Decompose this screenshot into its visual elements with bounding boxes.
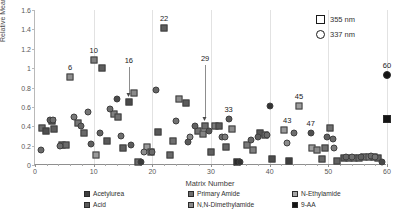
legend-swatch-square-icon	[188, 191, 194, 197]
data-point-355nm	[80, 129, 87, 136]
data-point-337nm	[307, 130, 314, 137]
legend-swatch-square-icon	[84, 191, 90, 197]
data-point-355nm	[215, 123, 222, 130]
legend-item-355nm: 355 nm	[316, 12, 388, 27]
annotation-leader-line	[129, 67, 130, 93]
x-axis-tick-label: 30	[207, 168, 215, 175]
y-axis-tick-label: 0.2	[21, 142, 31, 149]
x-axis-minor-tick	[352, 164, 353, 166]
data-point-337nm	[137, 159, 144, 166]
data-point-337nm	[88, 141, 95, 148]
data-point-355nm	[281, 127, 288, 134]
legend-item-n-ethylamide: N-Ethylamide	[292, 188, 396, 199]
x-axis-tick-mark	[35, 164, 36, 167]
x-axis-tick-mark	[270, 164, 271, 167]
data-point-355nm	[314, 146, 321, 153]
legend-label-337nm: 337 nm	[330, 30, 355, 39]
data-point-355nm	[114, 114, 121, 121]
x-axis-tick-label: 0	[33, 168, 37, 175]
data-point-337nm	[184, 138, 191, 145]
x-axis-minor-tick	[176, 164, 177, 166]
x-axis-minor-tick	[82, 164, 83, 166]
y-axis-tick-mark	[32, 107, 35, 108]
x-axis-minor-tick	[199, 164, 200, 166]
data-point-337nm	[379, 159, 386, 166]
x-axis-minor-tick	[188, 164, 189, 166]
x-axis-minor-tick	[375, 164, 376, 166]
x-axis-minor-tick	[281, 164, 282, 166]
data-point-337nm	[348, 153, 355, 160]
legend-item-9-aa: 9-AA	[292, 199, 396, 210]
data-point-337nm	[70, 114, 77, 121]
legend-item-337nm: 337 nm	[316, 27, 388, 42]
y-axis-tick-label: 1	[27, 65, 31, 72]
y-axis-tick-mark	[32, 49, 35, 50]
x-axis-minor-tick	[364, 164, 365, 166]
y-axis-tick-label: 1.4	[21, 26, 31, 33]
circle-open-icon	[316, 30, 325, 39]
data-point-337nm	[383, 71, 391, 79]
y-axis-tick-mark	[32, 10, 35, 11]
annotation-arrowhead-icon	[126, 93, 130, 97]
data-point-337nm	[107, 105, 114, 112]
x-axis-tick-mark	[211, 164, 212, 167]
data-point-337nm	[50, 116, 57, 123]
legend-swatch-square-icon	[84, 202, 90, 208]
data-point-355nm	[169, 138, 176, 145]
data-point-337nm	[172, 117, 179, 124]
data-point-355nm	[99, 65, 106, 72]
data-point-337nm	[284, 140, 291, 147]
legend-item-n-n-dimethylamide: N,N-Dimethylamide	[188, 199, 292, 210]
y-axis-tick-label: 0.6	[21, 103, 31, 110]
data-point-337nm	[96, 129, 103, 136]
x-axis-minor-tick	[105, 164, 106, 166]
x-axis-minor-tick	[164, 164, 165, 166]
data-point-337nm	[149, 148, 156, 155]
data-point-337nm	[222, 134, 229, 141]
x-axis-minor-tick	[58, 164, 59, 166]
y-axis-tick-label: 0.4	[21, 123, 31, 130]
x-axis-minor-tick	[293, 164, 294, 166]
y-axis-tick-mark	[32, 88, 35, 89]
annotation-arrowhead-icon	[203, 117, 207, 121]
data-point-337nm	[152, 86, 159, 93]
legend-label: 9-AA	[301, 201, 316, 208]
data-point-337nm	[141, 148, 148, 155]
legend-label: Primary Amide	[197, 190, 240, 197]
x-axis-tick-label: 20	[148, 168, 156, 175]
annotation-label: 33	[224, 106, 232, 114]
y-axis-tick-mark	[32, 29, 35, 30]
legend-swatch-square-icon	[292, 191, 298, 197]
data-point-337nm	[37, 146, 44, 153]
annotation-label: 43	[283, 117, 291, 125]
wavelength-legend: 355 nm 337 nm	[316, 12, 388, 42]
annotation-label: 45	[295, 93, 303, 101]
data-point-355nm	[223, 144, 230, 151]
data-point-355nm	[333, 158, 340, 165]
data-point-337nm	[266, 102, 273, 109]
x-axis-title: Matrix Number	[34, 179, 386, 188]
series-legend: AcetylureaPrimary AmideN-EthylamideAcidN…	[0, 188, 396, 214]
data-point-355nm	[327, 124, 334, 131]
x-axis-tick-label: 50	[324, 168, 332, 175]
data-point-337nm	[205, 127, 212, 134]
data-point-355nm	[383, 115, 391, 123]
legend-label-355nm: 355 nm	[330, 15, 355, 24]
annotation-label: 60	[383, 62, 391, 70]
data-point-337nm	[330, 136, 337, 143]
data-point-355nm	[93, 152, 100, 159]
x-axis-minor-tick	[317, 164, 318, 166]
x-axis-minor-tick	[340, 164, 341, 166]
x-axis-minor-tick	[223, 164, 224, 166]
annotation-label: 47	[307, 120, 315, 128]
x-axis-tick-label: 10	[90, 168, 98, 175]
x-axis-tick-mark	[94, 164, 95, 167]
data-point-355nm	[130, 89, 137, 96]
legend-label: Acetylurea	[93, 190, 124, 197]
data-point-337nm	[77, 123, 84, 130]
data-point-355nm	[166, 152, 173, 159]
data-point-355nm	[104, 138, 111, 145]
annotation-label: 16	[125, 57, 133, 65]
x-axis-tick-mark	[152, 164, 153, 167]
legend-swatch-square-icon	[292, 202, 298, 208]
